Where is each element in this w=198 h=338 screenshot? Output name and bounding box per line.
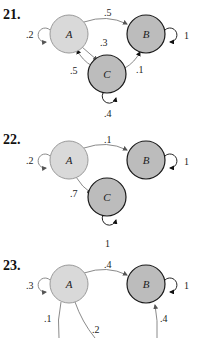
edge-a-to-b — [84, 144, 127, 150]
node-b: B — [127, 265, 165, 303]
node-c-label: C — [103, 191, 111, 203]
loop-a — [38, 28, 50, 42]
edge-label-a-c: .7 — [70, 188, 78, 199]
node-b-label: B — [143, 278, 150, 290]
problem-number: 21. — [3, 7, 21, 22]
edge-label-a-a: .2 — [26, 155, 34, 166]
problem-number: 23. — [3, 258, 21, 273]
edge-label-b-b: 1 — [184, 156, 189, 167]
node-c-label: C — [103, 68, 111, 80]
node-a-label: A — [65, 278, 73, 290]
edge-label-a-b: .1 — [104, 134, 112, 145]
edge-label-b-b: 1 — [184, 280, 189, 291]
edge-label-a-a: .2 — [26, 29, 34, 40]
node-b-label: B — [143, 154, 150, 166]
loop-a — [38, 154, 50, 168]
edge-a-to-b — [84, 269, 127, 275]
markov-diagrams: 21. A B C .2 .5 .3 .5 .1 .4 1 2 — [0, 0, 198, 338]
edge-label-a-out-1: .1 — [44, 313, 52, 324]
loop-b — [165, 28, 177, 42]
node-a: A — [50, 15, 88, 53]
loop-b — [165, 154, 177, 168]
edge-label-c-c: 1 — [105, 238, 110, 249]
edge-a-to-b — [84, 18, 127, 24]
loop-c — [102, 93, 116, 103]
edge-label-a-out-2: .2 — [92, 324, 100, 335]
node-a-label: A — [65, 154, 73, 166]
edge-label-a-b: .5 — [104, 7, 112, 18]
edge-label-in-b: .4 — [160, 313, 168, 324]
loop-a — [38, 278, 50, 292]
diagram-23: 23. A B .3 .4 1 .1 .2 .4 — [3, 258, 189, 338]
edge-label-a-c: .3 — [100, 37, 108, 48]
edge-label-c-c: .4 — [104, 108, 112, 119]
edge-in-b — [155, 305, 157, 338]
node-a: A — [50, 141, 88, 179]
edge-a-out-1 — [58, 302, 61, 338]
node-b: B — [127, 15, 165, 53]
diagram-21: 21. A B C .2 .5 .3 .5 .1 .4 1 — [3, 7, 189, 119]
node-c: C — [88, 178, 126, 216]
edge-label-b-b: 1 — [184, 30, 189, 41]
edge-a-to-c — [82, 47, 97, 60]
edge-label-a-a: .3 — [26, 280, 34, 291]
edge-c-to-a — [77, 50, 92, 66]
edge-label-a-b: .4 — [104, 259, 112, 270]
node-a: A — [50, 265, 88, 303]
loop-c — [102, 215, 116, 225]
node-b-label: B — [143, 28, 150, 40]
loop-b — [165, 278, 177, 292]
problem-number: 22. — [3, 132, 21, 147]
diagram-22: 22. A B C .2 .1 .7 1 1 — [3, 132, 189, 249]
node-b: B — [127, 141, 165, 179]
edge-label-c-a: .5 — [70, 65, 78, 76]
node-a-label: A — [65, 28, 73, 40]
node-c: C — [88, 55, 126, 93]
edge-label-c-b: .1 — [136, 64, 144, 75]
